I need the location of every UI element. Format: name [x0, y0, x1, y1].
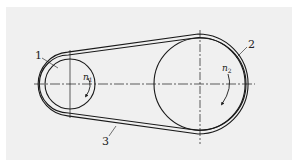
label-n2-subscript: 2 — [228, 67, 232, 74]
label-n1-subscript: 1 — [89, 76, 93, 83]
belt-drive-diagram: 1 2 3 n1 n2 — [0, 0, 299, 168]
label-3: 3 — [102, 135, 109, 148]
label-n1: n1 — [83, 72, 93, 83]
label-n2: n2 — [222, 63, 232, 74]
label-1: 1 — [35, 49, 42, 62]
leader-line-3 — [109, 126, 116, 136]
rotation-arrow-n2 — [222, 74, 230, 104]
label-2: 2 — [248, 38, 255, 51]
